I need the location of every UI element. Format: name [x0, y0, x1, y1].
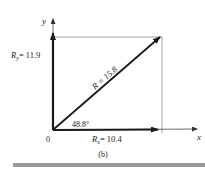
y-axis-label: y: [41, 16, 46, 26]
x-axis-label: x: [196, 132, 201, 142]
resultant-vector: [54, 37, 160, 129]
resultant-label: R = 15.8: [89, 64, 120, 92]
x-component-vector: [53, 130, 158, 131]
x-component-label: Rx= 10.4: [91, 134, 122, 145]
bottom-rule: [13, 163, 205, 167]
origin-label: 0: [46, 135, 50, 144]
vector-diagram: y x 0 Ry= 11.9 Rx= 10.4 R = 15.8 48.8° (…: [0, 0, 205, 171]
figure-caption: (b): [98, 150, 108, 159]
angle-label: 48.8°: [72, 120, 89, 129]
y-component-label: Ry= 11.9: [10, 50, 40, 61]
